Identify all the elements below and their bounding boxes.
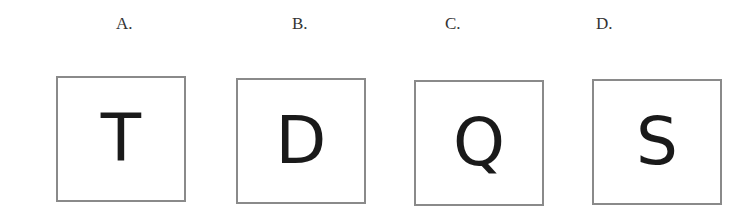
option-box-a[interactable]: T xyxy=(56,76,186,202)
option-label-c: C. xyxy=(445,14,461,34)
option-box-b[interactable]: D xyxy=(236,78,366,204)
option-letter-c: Q xyxy=(453,110,505,176)
option-box-c[interactable]: Q xyxy=(414,80,544,206)
option-label-d: D. xyxy=(596,14,613,34)
option-label-b: B. xyxy=(292,14,308,34)
option-letter-a: T xyxy=(101,106,141,172)
option-box-d[interactable]: S xyxy=(592,79,722,205)
option-letter-d: S xyxy=(636,109,678,175)
option-label-a: A. xyxy=(116,14,133,34)
option-letter-b: D xyxy=(276,108,327,174)
